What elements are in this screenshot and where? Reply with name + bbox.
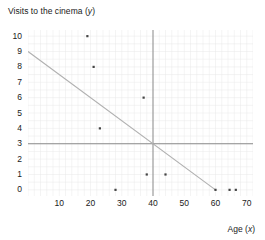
y-axis-tick-label: 9 [2, 47, 22, 56]
x-axis-label-close: ) [252, 224, 255, 234]
x-axis-label: Age (x) [228, 224, 255, 234]
y-axis-tick-label: 3 [2, 139, 22, 148]
plot-area [28, 30, 253, 196]
y-axis-tick-label: 1 [2, 170, 22, 179]
chart-title-close: ) [92, 6, 95, 16]
x-axis-tick-label: 10 [47, 199, 71, 208]
x-axis-tick-label: 40 [141, 199, 165, 208]
plot-svg [28, 30, 253, 196]
scatter-chart: Visits to the cinema (y) 012345678910 10… [0, 0, 265, 240]
x-axis-tick-label: 60 [204, 199, 228, 208]
chart-title: Visits to the cinema (y) [8, 6, 95, 16]
x-axis-label-text: Age ( [228, 224, 248, 234]
y-axis-tick-label: 8 [2, 62, 22, 71]
chart-title-text: Visits to the cinema ( [8, 6, 88, 16]
y-axis-tick-label: 7 [2, 78, 22, 87]
x-axis-tick-label: 70 [235, 199, 259, 208]
grid-lines [28, 30, 253, 196]
x-axis-tick-label: 20 [79, 199, 103, 208]
y-axis-tick-label: 6 [2, 93, 22, 102]
y-axis-tick-label: 10 [2, 32, 22, 41]
y-axis-tick-label: 0 [2, 185, 22, 194]
x-axis-tick-label: 50 [172, 199, 196, 208]
y-axis-tick-label: 5 [2, 109, 22, 118]
y-axis-tick-label: 4 [2, 124, 22, 133]
x-axis-tick-label: 30 [110, 199, 134, 208]
y-axis-tick-label: 2 [2, 155, 22, 164]
